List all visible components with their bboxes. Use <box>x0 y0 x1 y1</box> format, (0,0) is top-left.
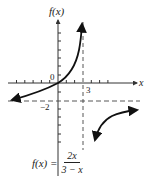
origin-label: 0 <box>50 73 55 82</box>
y-tick-label-neg2: −2 <box>40 103 50 112</box>
formula-fraction: 2x 3 − x <box>61 150 82 175</box>
x-tick-label-3: 3 <box>86 86 91 95</box>
x-axis <box>8 80 137 83</box>
y-axis-label: f(x) <box>49 6 64 17</box>
curve-left-branch <box>12 24 82 100</box>
formula-denominator: 3 − x <box>61 163 82 175</box>
formula-numerator: 2x <box>64 150 79 163</box>
x-axis-label: x <box>139 78 143 88</box>
curve-right-branch <box>95 110 137 140</box>
function-formula: f(x) = 2x 3 − x <box>32 150 83 175</box>
formula-lhs: f(x) = <box>32 157 57 169</box>
